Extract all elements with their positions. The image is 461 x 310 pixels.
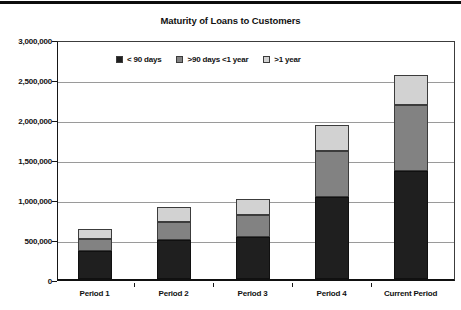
bar-segment[interactable] — [315, 125, 349, 151]
legend-label: >90 days <1 year — [187, 55, 248, 64]
x-tick-3 — [292, 283, 293, 287]
y-tick-2,500,000 — [52, 81, 57, 82]
legend-item-1: < 90 days — [116, 55, 161, 64]
y-axis-label: 2,500,000 — [2, 77, 52, 86]
bar-segment[interactable] — [157, 222, 191, 240]
bar-period-3[interactable] — [236, 199, 270, 279]
y-axis-label: 1,500,000 — [2, 157, 52, 166]
y-axis-label: 0 — [2, 277, 52, 286]
bar-segment[interactable] — [394, 171, 428, 279]
legend-swatch-icon — [116, 56, 123, 63]
x-tick-4 — [371, 283, 372, 287]
plot-area: < 90 days>90 days <1 year>1 year — [57, 41, 455, 281]
y-axis-label: 1,000,000 — [2, 197, 52, 206]
legend-swatch-icon — [176, 56, 183, 63]
top-rule — [0, 1, 461, 4]
bar-period-4[interactable] — [315, 125, 349, 279]
bar-period-2[interactable] — [157, 207, 191, 279]
y-axis-label: 2,000,000 — [2, 117, 52, 126]
bar-segment[interactable] — [78, 239, 112, 251]
y-tick-3,000,000 — [52, 41, 57, 42]
legend-item-2: >90 days <1 year — [176, 55, 248, 64]
bar-segment[interactable] — [236, 199, 270, 215]
x-tick-1 — [134, 283, 135, 287]
bar-segment[interactable] — [78, 229, 112, 239]
bar-segment[interactable] — [315, 151, 349, 197]
bar-period-1[interactable] — [78, 229, 112, 279]
bar-segment[interactable] — [157, 240, 191, 279]
legend-item-3: >1 year — [263, 55, 300, 64]
bar-current-period[interactable] — [394, 75, 428, 279]
legend-label: >1 year — [274, 55, 300, 64]
bar-segment[interactable] — [157, 207, 191, 222]
y-tick-2,000,000 — [52, 121, 57, 122]
bar-segment[interactable] — [236, 237, 270, 279]
bar-segment[interactable] — [394, 105, 428, 171]
x-axis-label-4: Period 4 — [292, 289, 371, 298]
bar-segment[interactable] — [394, 75, 428, 105]
legend-swatch-icon — [263, 56, 270, 63]
bar-segment[interactable] — [236, 215, 270, 237]
chart-title: Maturity of Loans to Customers — [0, 15, 461, 26]
y-tick-1,500,000 — [52, 161, 57, 162]
y-tick-0 — [52, 281, 57, 282]
y-axis-label: 500,000 — [2, 237, 52, 246]
x-tick-2 — [213, 283, 214, 287]
legend-label: < 90 days — [127, 55, 161, 64]
y-axis-label: 3,000,000 — [2, 37, 52, 46]
y-tick-500,000 — [52, 241, 57, 242]
x-axis-label-5: Current Period — [371, 289, 450, 298]
x-axis-label-3: Period 3 — [213, 289, 292, 298]
y-tick-1,000,000 — [52, 201, 57, 202]
bar-segment[interactable] — [78, 251, 112, 279]
legend: < 90 days>90 days <1 year>1 year — [116, 55, 301, 64]
x-axis-label-2: Period 2 — [134, 289, 213, 298]
x-axis-label-1: Period 1 — [55, 289, 134, 298]
bar-segment[interactable] — [315, 197, 349, 279]
